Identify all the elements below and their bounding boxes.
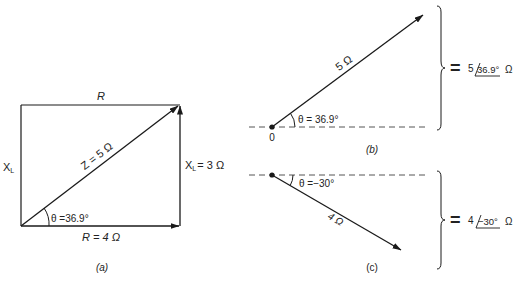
panel-b-label: (b) <box>366 144 378 155</box>
origin-label: 0 <box>269 132 275 143</box>
brace-c <box>437 171 445 269</box>
origin-dot-c <box>269 172 274 177</box>
phasor-diagram: R XL Z = 5 Ω XL= 3 Ω R = 4 Ω θ =36.9° (a… <box>0 0 516 281</box>
vector-label-c: 4 Ω <box>326 210 346 228</box>
polar-unit-c: Ω <box>505 216 513 227</box>
panel-c-phasor: θ =−30° 4 Ω (c) = 4 −30° Ω <box>249 171 513 273</box>
angle-label-b: θ = 36.9° <box>298 114 338 125</box>
vector-label-b: 5 Ω <box>333 53 354 73</box>
polar-angle-b: 36.9° <box>477 64 499 75</box>
angle-arc-a <box>44 208 49 226</box>
top-label: R <box>97 90 105 102</box>
polar-magnitude-c: 4 <box>468 215 474 226</box>
angle-arc-c <box>290 175 293 186</box>
panel-a-impedance-triangle: R XL Z = 5 Ω XL= 3 Ω R = 4 Ω θ =36.9° (a… <box>3 90 224 273</box>
vector-5-ohm <box>272 15 423 127</box>
angle-label-a: θ =36.9° <box>51 213 89 224</box>
right-label: XL= 3 Ω <box>185 159 224 172</box>
brace-b <box>437 6 445 130</box>
equals-sign-b: = <box>450 58 461 78</box>
hypotenuse-label: Z = 5 Ω <box>78 140 114 172</box>
polar-unit-b: Ω <box>505 64 513 75</box>
panel-c-label: (c) <box>366 262 378 273</box>
polar-angle-c: −30° <box>478 216 498 227</box>
angle-arc-b <box>291 113 296 127</box>
origin-dot-b <box>269 124 274 129</box>
left-label: XL <box>3 161 14 174</box>
angle-label-c: θ =−30° <box>299 178 334 189</box>
equals-sign-c: = <box>450 210 461 230</box>
bottom-label: R = 4 Ω <box>82 231 120 243</box>
panel-a-label: (a) <box>96 262 108 273</box>
panel-b-phasor: 0 5 Ω θ = 36.9° (b) = 5 36.9° Ω <box>249 6 513 155</box>
polar-magnitude-b: 5 <box>468 63 474 74</box>
